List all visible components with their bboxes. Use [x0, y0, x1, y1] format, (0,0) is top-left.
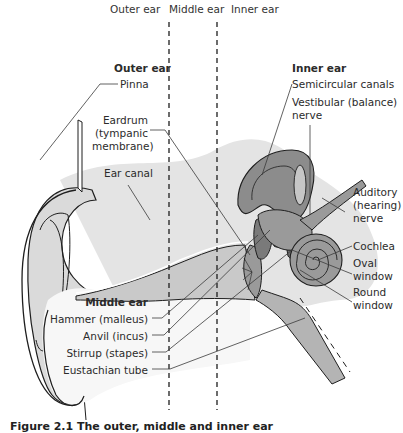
label-round-line2: window [353, 299, 393, 312]
label-eardrum-line1: Eardrum [92, 114, 148, 127]
label-eardrum-line2: (tympanic [92, 127, 148, 140]
label-ear-canal: Ear canal [104, 167, 153, 180]
figure-caption: Figure 2.1 The outer, middle and inner e… [10, 420, 273, 433]
label-semicircular: Semicircular canals [292, 78, 394, 91]
label-auditory-line1: Auditory [353, 186, 401, 199]
label-stirrup: Stirrup (stapes) [50, 347, 148, 360]
label-eardrum-line3: membrane) [92, 140, 148, 153]
header-middle-ear: Middle ear [169, 3, 224, 15]
label-oval-window: Oval window [353, 257, 393, 283]
pinna-stem [78, 120, 82, 192]
label-inner-ear-title: Inner ear [292, 62, 346, 75]
label-eustachian: Eustachian tube [50, 364, 148, 377]
label-oval-line1: Oval [353, 257, 393, 270]
label-auditory: Auditory (hearing) nerve [353, 186, 401, 225]
label-pinna: Pinna [120, 78, 149, 91]
canal-loop [294, 165, 306, 205]
label-vestibular-line1: Vestibular (balance) [292, 96, 397, 109]
header-inner-ear: Inner ear [231, 3, 279, 15]
label-round-window: Round window [353, 286, 393, 312]
label-outer-ear-title: Outer ear [114, 62, 171, 75]
label-anvil: Anvil (incus) [50, 330, 148, 343]
label-hammer: Hammer (malleus) [50, 313, 148, 326]
header-outer-ear: Outer ear [110, 3, 160, 15]
label-vestibular: Vestibular (balance) nerve [292, 96, 397, 122]
label-oval-line2: window [353, 270, 393, 283]
label-vestibular-line2: nerve [292, 109, 397, 122]
label-auditory-line3: nerve [353, 212, 401, 225]
label-cochlea: Cochlea [353, 240, 395, 253]
label-eardrum: Eardrum (tympanic membrane) [92, 114, 148, 153]
label-round-line1: Round [353, 286, 393, 299]
label-auditory-line2: (hearing) [353, 199, 401, 212]
label-middle-ear-title: Middle ear [60, 296, 148, 309]
